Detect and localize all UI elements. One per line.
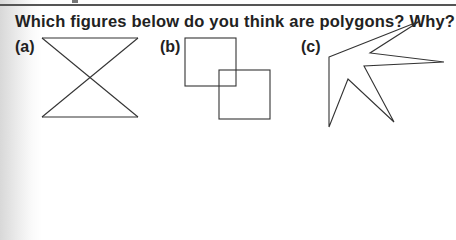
- figure-a-bowtie: [42, 38, 138, 117]
- figure-b-overlapping-squares: [185, 38, 270, 119]
- figures-canvas: [0, 0, 456, 131]
- figure-c-star-polygon: [329, 21, 444, 127]
